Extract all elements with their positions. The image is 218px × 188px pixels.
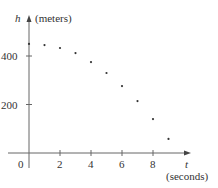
data-point bbox=[28, 43, 30, 45]
data-point bbox=[74, 52, 76, 54]
data-point bbox=[152, 118, 154, 120]
data-point bbox=[59, 47, 61, 49]
data-point bbox=[121, 85, 123, 87]
x-tick-label-2: 2 bbox=[57, 158, 63, 170]
data-point bbox=[90, 61, 92, 63]
data-points bbox=[28, 43, 170, 140]
y-axis-unit: (meters) bbox=[35, 12, 72, 24]
data-point bbox=[105, 72, 107, 74]
data-point bbox=[167, 138, 169, 140]
x-tick-label-8: 8 bbox=[150, 158, 156, 170]
data-point bbox=[43, 44, 45, 46]
y-axis-arrow-icon bbox=[27, 15, 32, 22]
y-tick-label-400: 400 bbox=[1, 50, 18, 62]
data-point bbox=[136, 100, 138, 102]
x-axis-variable: t bbox=[185, 158, 188, 170]
y-tick-label-200: 200 bbox=[1, 99, 18, 111]
y-axis-variable: h bbox=[15, 12, 21, 24]
x-axis-arrow-icon bbox=[184, 151, 191, 156]
x-tick-label-4: 4 bbox=[88, 158, 94, 170]
x-axis-unit: (seconds) bbox=[166, 170, 208, 182]
x-tick-label-6: 6 bbox=[119, 158, 125, 170]
origin-label: 0 bbox=[18, 158, 24, 170]
